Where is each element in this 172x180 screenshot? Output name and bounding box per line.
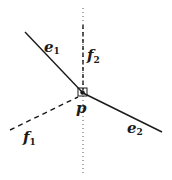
label-f1: f1 <box>22 128 36 147</box>
point-p-dot <box>80 90 84 94</box>
face-f1-line <box>10 97 78 130</box>
label-p: p <box>76 99 87 117</box>
label-e1: e1 <box>44 38 60 56</box>
diagram-canvas: e1 f2 p f1 e2 <box>0 0 172 180</box>
edge-e2-line <box>83 93 162 132</box>
label-f2: f2 <box>86 46 100 65</box>
edge-e1-line <box>25 32 83 93</box>
